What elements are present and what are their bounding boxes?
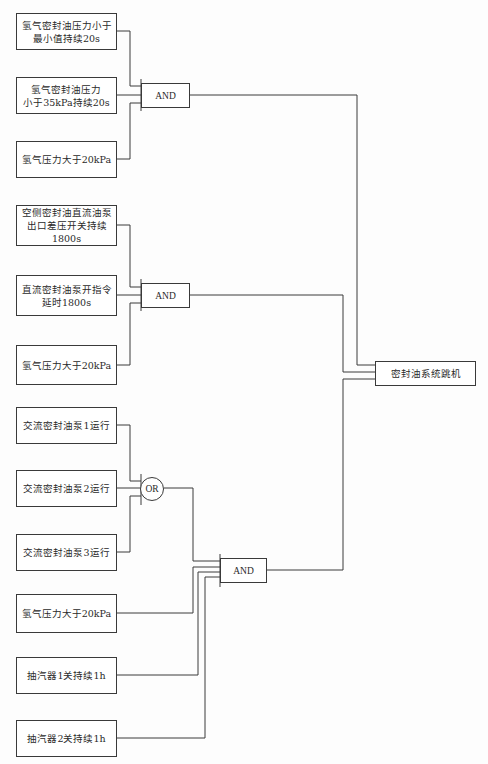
and-gate-2: AND <box>141 283 190 308</box>
input-box-4: 空侧密封油直流油泵 出口差压开关持续 1800s <box>16 205 117 246</box>
input-box-6: 氢气压力大于20kPa <box>16 345 117 385</box>
input-box-9: 交流密封油泵3运行 <box>16 534 117 571</box>
input-box-11: 抽汽器1关持续1h <box>16 657 117 694</box>
input-box-8: 交流密封油泵2运行 <box>16 470 117 507</box>
and-gate-3: AND <box>220 558 267 583</box>
input-box-10: 氢气压力大于20kPa <box>16 594 117 633</box>
and-gate-1: AND <box>141 83 190 108</box>
logic-diagram: 氢气密封油压力小于 最小值持续20s 氢气密封油压力 小于35kPa持续20s … <box>0 0 488 764</box>
input-box-12: 抽汽器2关持续1h <box>16 720 117 757</box>
input-box-5: 直流密封油泵开指令 延时1800s <box>16 275 117 316</box>
input-box-3: 氢气压力大于20kPa <box>16 141 117 178</box>
output-box-seal-oil-trip: 密封油系统跳机 <box>375 361 476 386</box>
input-box-2: 氢气密封油压力 小于35kPa持续20s <box>16 77 117 114</box>
input-box-7: 交流密封油泵1运行 <box>16 407 117 444</box>
or-gate: OR <box>140 477 164 501</box>
input-box-1: 氢气密封油压力小于 最小值持续20s <box>16 13 117 50</box>
